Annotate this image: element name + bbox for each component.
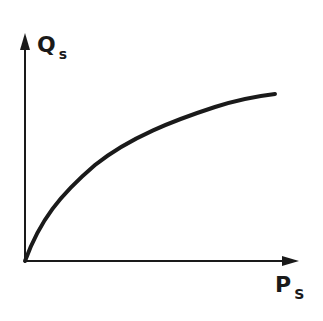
x-axis-label: PS — [275, 272, 304, 297]
y-axis-label-sub: s — [59, 46, 67, 62]
x-axis-arrow-icon — [282, 256, 299, 266]
x-axis-label-main: P — [275, 272, 291, 297]
supply-curve — [25, 94, 275, 261]
y-axis-label-main: Q — [37, 32, 56, 57]
y-axis-arrow-icon — [20, 33, 30, 50]
x-axis-label-sub: S — [294, 286, 304, 302]
y-axis-label: Qs — [37, 32, 67, 57]
